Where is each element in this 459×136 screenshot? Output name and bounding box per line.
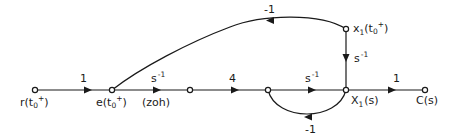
gain-x1t0-X1: s-1 [354,50,368,65]
arrow-x1t0-X1 [343,54,350,62]
gain-X1-n4: -1 [305,123,316,136]
node-C [422,87,427,92]
label-x1t0: x1(t0+) [353,20,388,37]
arrow-X1-C [388,87,396,94]
gain-n3-n4: 4 [229,72,236,85]
gain-n4-X1: s-1 [305,70,319,85]
node-e [109,87,114,92]
signal-flow-graph: 1 s-1 4 s-1 1 -1 s-1 -1 (zoh) r(t0+) e(t… [0,0,459,136]
node-X1 [343,87,348,92]
node-n3 [187,87,192,92]
gain-x1t0-e: -1 [264,3,275,16]
edge-X1-n4-feedback [268,90,346,114]
arrow-r-e [84,87,92,94]
gain-X1-C: 1 [393,72,400,85]
arrow-e-n3 [153,87,161,94]
node-n4 [265,87,270,92]
note-zoh: (zoh) [142,96,170,109]
gain-e-n3: s-1 [151,70,165,85]
arrow-n4-X1 [308,87,316,94]
label-r: r(t0+) [20,94,49,110]
label-C: C(s) [416,94,438,107]
arrow-n3-n4 [231,87,239,94]
label-e: e(t0+) [96,94,127,110]
gain-r-e: 1 [80,72,87,85]
node-r [32,87,37,92]
node-x1t0 [343,26,348,31]
label-X1: X1(s) [351,94,379,109]
